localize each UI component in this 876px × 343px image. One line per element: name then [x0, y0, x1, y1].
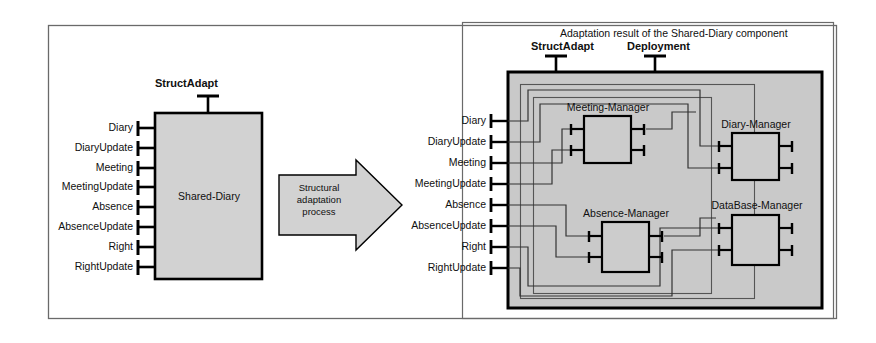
- left-port-label-meetingupdate: MeetingUpdate: [35, 181, 133, 192]
- composite-left-ports: [490, 114, 508, 275]
- right-port-label-diaryupdate: DiaryUpdate: [388, 136, 486, 147]
- arrow-label-line-3: process: [286, 206, 352, 218]
- result-panel-title: Adaptation result of the Shared-Diary co…: [560, 28, 788, 39]
- absence-manager-box[interactable]: [602, 222, 649, 272]
- shared-diary-name: Shared-Diary: [175, 191, 243, 202]
- right-port-label-rightupdate: RightUpdate: [388, 262, 486, 273]
- absence-manager-label: Absence-Manager: [567, 208, 685, 219]
- right-port-label-meeting: Meeting: [388, 157, 486, 168]
- left-port-label-rightupdate: RightUpdate: [35, 261, 133, 272]
- right-port-label-absence: Absence: [388, 199, 486, 210]
- shared-diary-left-ports: [137, 121, 155, 275]
- arrow-label-line-2: adaptation: [286, 194, 352, 206]
- diagram-canvas: StructAdapt Shared-Diary Diary DiaryUpda…: [0, 0, 876, 343]
- result-structadapt-label: StructAdapt: [531, 41, 594, 52]
- right-port-label-right: Right: [388, 241, 486, 252]
- database-manager-box[interactable]: [732, 215, 779, 265]
- left-port-label-diaryupdate: DiaryUpdate: [35, 142, 133, 153]
- left-port-label-diary: Diary: [35, 122, 133, 133]
- left-structadapt-label: StructAdapt: [155, 78, 218, 89]
- diary-manager-label: Diary-Manager: [703, 119, 809, 130]
- left-port-label-meeting: Meeting: [35, 162, 133, 173]
- meeting-manager-label: Meeting-Manager: [548, 102, 668, 113]
- left-port-label-right: Right: [35, 241, 133, 252]
- result-deployment-label: Deployment: [627, 41, 690, 52]
- diary-manager-box[interactable]: [732, 133, 779, 180]
- shared-diary-group: [137, 95, 262, 279]
- meeting-manager-box[interactable]: [584, 116, 631, 163]
- left-port-label-absenceupdate: AbsenceUpdate: [35, 221, 133, 232]
- database-manager-label: DataBase-Manager: [697, 200, 817, 211]
- right-port-label-diary: Diary: [388, 115, 486, 126]
- arrow-label: Structural adaptation process: [286, 182, 352, 218]
- adaptation-result-group: [463, 23, 834, 319]
- left-port-label-absence: Absence: [35, 201, 133, 212]
- right-port-label-meetingupdate: MeetingUpdate: [388, 178, 486, 189]
- arrow-label-line-1: Structural: [286, 182, 352, 194]
- right-port-label-absenceupdate: AbsenceUpdate: [388, 220, 486, 231]
